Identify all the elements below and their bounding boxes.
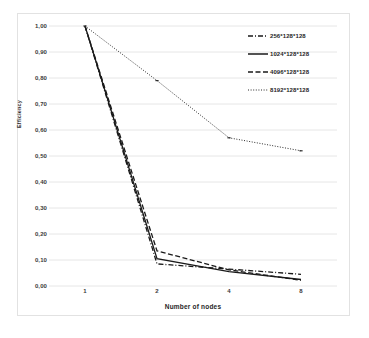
efficiency-line-chart: 0,000,100,200,300,400,500,600,700,800,90…	[0, 0, 369, 338]
legend-label: 4096*128*128	[270, 69, 309, 75]
y-tick-label: 0,20	[35, 231, 47, 237]
y-tick-label: 0,10	[35, 257, 47, 263]
y-tick-label: 0,00	[35, 283, 47, 289]
legend-item-3[interactable]: 8192*128*128	[248, 82, 346, 98]
y-tick-label: 0,90	[35, 49, 47, 55]
chart-legend: 256*128*1281024*128*1284096*128*1288192*…	[248, 28, 346, 100]
x-axis-title: Number of nodes	[49, 303, 337, 310]
legend-line-swatch	[248, 32, 268, 40]
legend-item-2[interactable]: 4096*128*128	[248, 64, 346, 80]
legend-line-swatch	[248, 50, 268, 58]
y-tick-label: 0,60	[35, 127, 47, 133]
x-tick-label: 4	[227, 288, 230, 294]
y-axis-tick-labels: 0,000,100,200,300,400,500,600,700,800,90…	[17, 26, 47, 286]
y-tick-label: 1,00	[35, 23, 47, 29]
x-tick-label: 2	[155, 288, 158, 294]
legend-label: 8192*128*128	[270, 87, 309, 93]
legend-line-swatch	[248, 86, 268, 94]
y-axis-title: Efficiency	[16, 100, 22, 128]
legend-label: 256*128*128	[270, 33, 306, 39]
legend-line-swatch	[248, 68, 268, 76]
y-tick-label: 0,30	[35, 205, 47, 211]
y-tick-label: 0,70	[35, 101, 47, 107]
legend-item-1[interactable]: 1024*128*128	[248, 46, 346, 62]
y-tick-label: 0,40	[35, 179, 47, 185]
x-tick-label: 1	[83, 288, 86, 294]
legend-item-0[interactable]: 256*128*128	[248, 28, 346, 44]
y-tick-label: 0,50	[35, 153, 47, 159]
x-tick-label: 8	[299, 288, 302, 294]
x-axis-tick-labels: 1248	[49, 288, 337, 300]
y-tick-label: 0,80	[35, 75, 47, 81]
legend-label: 1024*128*128	[270, 51, 309, 57]
